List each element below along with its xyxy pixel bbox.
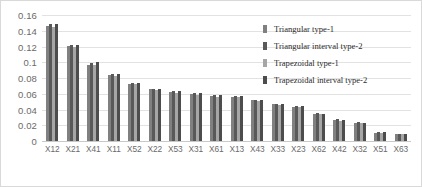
legend-item: Trapezoidal type-1 (263, 55, 367, 70)
y-axis-tick-label: 0.14 (18, 25, 37, 36)
x-axis-tick-label: X21 (63, 144, 84, 154)
bar-group (165, 15, 186, 141)
bar-group (186, 15, 207, 141)
legend-item: Triangular type-1 (263, 21, 367, 36)
bar (342, 120, 345, 141)
y-axis-tick-label: 0.1 (23, 57, 37, 68)
bar (137, 83, 140, 141)
x-axis-tick-label: X42 (329, 144, 350, 154)
bar (199, 93, 202, 141)
legend-item-label: Triangular type-1 (274, 24, 334, 34)
bar-group (124, 15, 145, 141)
bar (55, 24, 58, 141)
bar (158, 89, 161, 141)
bar-group (391, 15, 412, 141)
bar (383, 132, 386, 141)
bar (240, 96, 243, 141)
x-axis-tick-label: X61 (206, 144, 227, 154)
y-axis-tick-label: 0.06 (18, 88, 37, 99)
y-axis-tick-label: 0.04 (18, 104, 37, 115)
bar-chart-figure: 0.160.140.120.10.080.060.040.020 X12X21X… (0, 0, 422, 187)
bar-group (83, 15, 104, 141)
legend-swatch-icon (263, 25, 267, 33)
y-axis: 0.160.140.120.10.080.060.040.020 (1, 15, 37, 141)
bar-group (227, 15, 248, 141)
legend-item: Trapezoidal interval type-2 (263, 72, 367, 87)
bar-group (370, 15, 391, 141)
legend-item-label: Triangular interval type-2 (274, 41, 362, 51)
bar (96, 62, 99, 141)
x-axis-tick-label: X12 (42, 144, 63, 154)
x-axis-tick-label: X31 (186, 144, 207, 154)
legend-item-label: Trapezoidal type-1 (274, 58, 339, 68)
bar (117, 74, 120, 141)
bar (281, 104, 284, 141)
x-axis-tick-label: X13 (227, 144, 248, 154)
y-axis-tick-label: 0.16 (18, 10, 37, 21)
x-axis-tick-label: X52 (124, 144, 145, 154)
x-axis-tick-label: X53 (165, 144, 186, 154)
bar (404, 134, 407, 141)
chart-legend: Triangular type-1Triangular interval typ… (263, 21, 367, 89)
x-axis-tick-label: X32 (350, 144, 371, 154)
x-axis-tick-label: X51 (370, 144, 391, 154)
legend-item: Triangular interval type-2 (263, 38, 367, 53)
y-axis-tick-label: 0 (32, 136, 37, 147)
bar-group (104, 15, 125, 141)
bar (260, 100, 263, 141)
x-axis-tick-label: X62 (309, 144, 330, 154)
x-axis-tick-label: X33 (268, 144, 289, 154)
bar (301, 106, 304, 141)
gridline (42, 141, 411, 142)
bar-group (42, 15, 63, 141)
bar (219, 95, 222, 141)
legend-item-label: Trapezoidal interval type-2 (274, 75, 367, 85)
bar (178, 91, 181, 141)
x-axis-tick-label: X43 (247, 144, 268, 154)
x-axis-tick-label: X11 (104, 144, 125, 154)
y-axis-tick-label: 0.02 (18, 120, 37, 131)
x-axis-tick-label: X23 (288, 144, 309, 154)
legend-swatch-icon (263, 42, 267, 50)
legend-swatch-icon (263, 76, 267, 84)
bar (76, 45, 79, 141)
bar (322, 114, 325, 141)
x-axis-tick-label: X41 (83, 144, 104, 154)
bar-group (206, 15, 227, 141)
y-axis-tick-label: 0.08 (18, 73, 37, 84)
x-axis-tick-label: X22 (145, 144, 166, 154)
x-axis-tick-label: X63 (391, 144, 412, 154)
x-axis: X12X21X41X11X52X22X53X31X61X13X43X33X23X… (42, 144, 411, 154)
bar (363, 123, 366, 142)
y-axis-tick-label: 0.12 (18, 41, 37, 52)
bar-group (145, 15, 166, 141)
bar-group (63, 15, 84, 141)
legend-swatch-icon (263, 59, 267, 67)
